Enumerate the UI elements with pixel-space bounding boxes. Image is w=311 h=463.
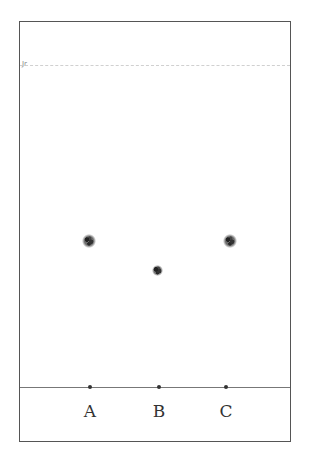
- solvent-front-mark: Jr: [22, 60, 27, 68]
- origin-dot-a: [88, 385, 92, 389]
- lane-label-c: C: [211, 401, 241, 421]
- spot-a: [82, 234, 96, 248]
- solvent-front-line: [20, 65, 290, 66]
- baseline: [20, 387, 290, 388]
- lane-label-b: B: [144, 401, 174, 421]
- lane-label-a: A: [75, 401, 105, 421]
- spot-b: [152, 265, 163, 276]
- tlc-plate: Jr A B C: [19, 21, 291, 442]
- origin-dot-b: [157, 385, 161, 389]
- spot-c: [223, 234, 237, 248]
- origin-dot-c: [224, 385, 228, 389]
